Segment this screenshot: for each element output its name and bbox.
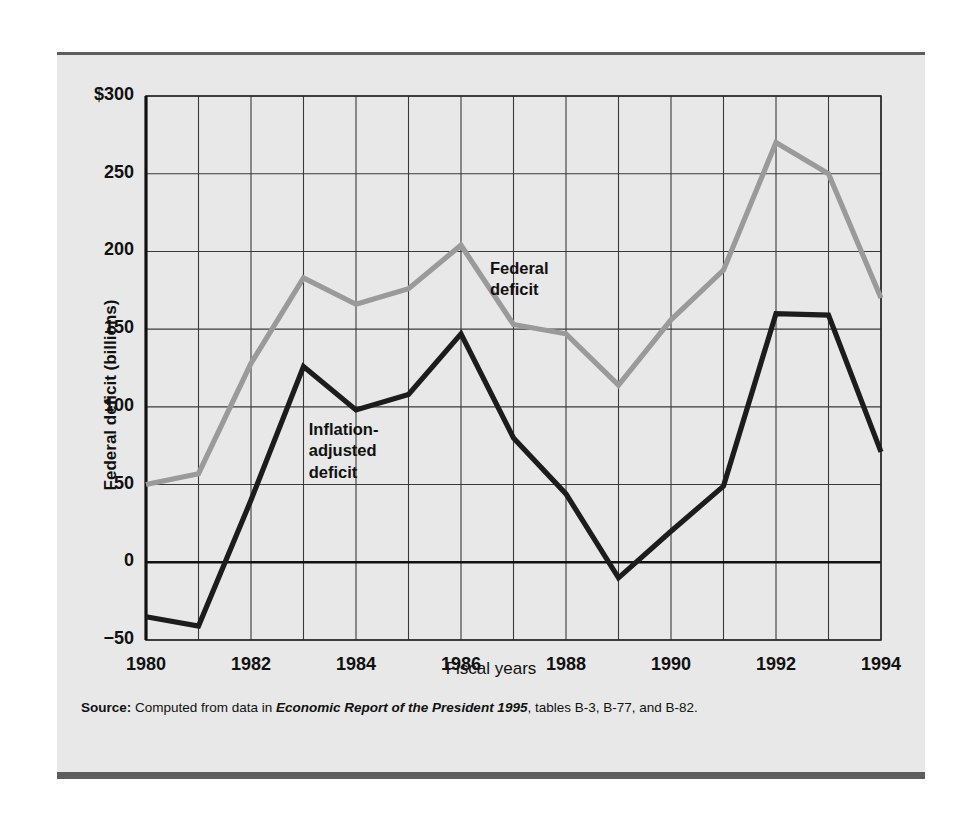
figure-root: Federal deficit (billions) Fiscal years … (0, 0, 965, 816)
chart-area: Federal deficit (billions) Fiscal years … (57, 55, 925, 778)
source-text-after: , tables B-3, B-77, and B-82. (527, 700, 697, 715)
source-publication: Economic Report of the President 1995 (276, 700, 527, 715)
series-label-federal-deficit: Federal deficit (490, 258, 549, 300)
source-note: Source: Computed from data in Economic R… (81, 700, 911, 715)
series-label-inflation-adjusted-deficit: Inflation- adjusted deficit (309, 419, 379, 482)
line-plot (57, 55, 925, 778)
source-prefix: Source: (81, 700, 131, 715)
source-text-before: Computed from data in (131, 700, 276, 715)
